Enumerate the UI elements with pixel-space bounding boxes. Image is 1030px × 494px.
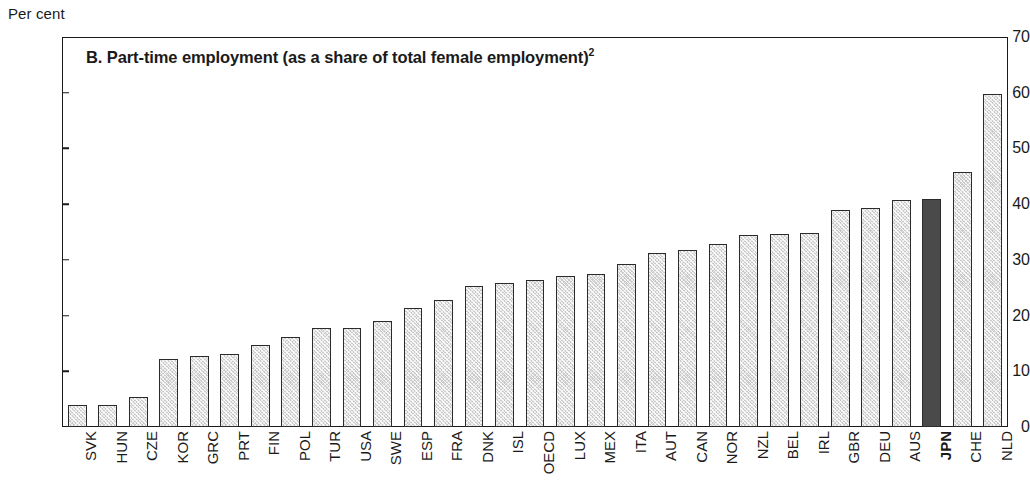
x-axis-tick-label-hun: HUN — [114, 431, 129, 464]
bar-slot — [404, 37, 423, 427]
bar-slot — [220, 37, 239, 427]
x-axis-tick-label-nzl: NZL — [755, 431, 770, 459]
bar-cze[interactable] — [129, 397, 148, 427]
x-axis-tick-label-deu: DEU — [877, 431, 892, 463]
bar-slot — [800, 37, 819, 427]
bar-svk[interactable] — [68, 405, 87, 427]
bar-tur[interactable] — [312, 328, 331, 427]
bar-fra[interactable] — [434, 300, 453, 427]
bar-slot — [343, 37, 362, 427]
x-axis-tick-label-prt: PRT — [236, 431, 251, 461]
bar-dnk[interactable] — [465, 286, 484, 428]
bar-slot — [495, 37, 514, 427]
x-axis-tick-label-aus: AUS — [907, 431, 922, 462]
bar-prt[interactable] — [220, 354, 239, 427]
x-axis-tick-label-svk: SVK — [83, 431, 98, 461]
x-axis-tick-label-oecd: OECD — [541, 431, 556, 474]
x-axis-tick-label-mex: MEX — [602, 431, 617, 464]
x-axis-tick-label-gbr: GBR — [846, 431, 861, 464]
bar-hun[interactable] — [98, 405, 117, 427]
bar-slot — [587, 37, 606, 427]
bar-grc[interactable] — [190, 356, 209, 427]
bar-slot — [68, 37, 87, 427]
x-axis-tick-label-kor: KOR — [175, 431, 190, 464]
bar-deu[interactable] — [861, 208, 880, 427]
bar-slot — [831, 37, 850, 427]
x-axis-tick-label-irl: IRL — [816, 431, 831, 454]
bar-che[interactable] — [953, 172, 972, 427]
y-axis-unit-label: Per cent — [8, 5, 65, 22]
bar-slot — [312, 37, 331, 427]
x-axis-tick-label-tur: TUR — [327, 431, 342, 462]
bar-mex[interactable] — [587, 274, 606, 427]
bar-slot — [526, 37, 545, 427]
x-axis-tick-label-fin: FIN — [266, 431, 281, 455]
bar-bel[interactable] — [770, 234, 789, 427]
x-axis-tick-label-isl: ISL — [510, 431, 525, 454]
bar-slot — [739, 37, 758, 427]
x-axis-tick-label-che: CHE — [968, 431, 983, 463]
bar-slot — [373, 37, 392, 427]
bar-slot — [770, 37, 789, 427]
bar-slot — [98, 37, 117, 427]
bar-slot — [190, 37, 209, 427]
bar-series — [62, 37, 1008, 427]
bar-slot — [159, 37, 178, 427]
bar-slot — [709, 37, 728, 427]
x-axis-tick-label-swe: SWE — [388, 431, 403, 465]
x-axis-tick-label-usa: USA — [358, 431, 373, 462]
x-axis-tick-label-can: CAN — [694, 431, 709, 463]
bar-usa[interactable] — [343, 328, 362, 427]
x-axis-tick-label-ita: ITA — [633, 431, 648, 453]
x-axis-tick-label-lux: LUX — [572, 431, 587, 460]
bar-slot — [678, 37, 697, 427]
bar-oecd[interactable] — [526, 280, 545, 427]
bar-jpn[interactable] — [922, 199, 941, 427]
x-axis-tick-label-dnk: DNK — [480, 431, 495, 463]
x-axis: SVKHUNCZEKORGRCPRTFINPOLTURUSASWEESPFRAD… — [62, 427, 1008, 494]
bar-can[interactable] — [678, 250, 697, 427]
x-axis-tick-label-cze: CZE — [144, 431, 159, 461]
bar-slot — [465, 37, 484, 427]
bar-slot — [953, 37, 972, 427]
bar-slot — [281, 37, 300, 427]
bar-swe[interactable] — [373, 321, 392, 427]
bar-slot — [892, 37, 911, 427]
bar-esp[interactable] — [404, 308, 423, 427]
bar-lux[interactable] — [556, 276, 575, 427]
bar-nld[interactable] — [983, 94, 1002, 427]
bar-kor[interactable] — [159, 359, 178, 427]
x-axis-tick-label-jpn: JPN — [938, 431, 953, 460]
bar-isl[interactable] — [495, 283, 514, 427]
x-axis-tick-label-aut: AUT — [663, 431, 678, 461]
bar-irl[interactable] — [800, 233, 819, 427]
bar-slot — [556, 37, 575, 427]
chart-container: Per cent B. Part-time employment (as a s… — [0, 0, 1030, 494]
x-axis-tick-label-nld: NLD — [999, 431, 1014, 461]
x-axis-tick-label-grc: GRC — [205, 431, 220, 464]
bar-slot — [129, 37, 148, 427]
bar-slot — [648, 37, 667, 427]
bar-slot — [922, 37, 941, 427]
x-axis-tick-label-esp: ESP — [419, 431, 434, 461]
bar-gbr[interactable] — [831, 210, 850, 427]
bar-slot — [617, 37, 636, 427]
bar-ita[interactable] — [617, 264, 636, 427]
bar-fin[interactable] — [251, 345, 270, 427]
x-axis-tick-label-pol: POL — [297, 431, 312, 461]
bar-slot — [434, 37, 453, 427]
bar-nzl[interactable] — [739, 235, 758, 427]
x-axis-tick-label-fra: FRA — [449, 431, 464, 461]
bar-slot — [861, 37, 880, 427]
bar-aus[interactable] — [892, 200, 911, 427]
x-axis-tick-label-nor: NOR — [724, 431, 739, 464]
bar-pol[interactable] — [281, 337, 300, 427]
x-axis-tick-label-bel: BEL — [785, 431, 800, 459]
bar-aut[interactable] — [648, 253, 667, 427]
bar-nor[interactable] — [709, 244, 728, 427]
bar-slot — [251, 37, 270, 427]
bar-slot — [983, 37, 1002, 427]
